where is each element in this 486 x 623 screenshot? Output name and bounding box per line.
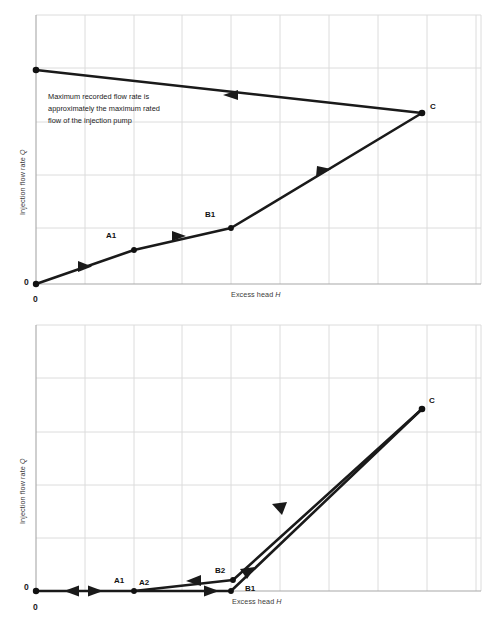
arrowheads-bottom <box>64 502 287 597</box>
point-label-C-bottom: C <box>429 396 435 405</box>
point-C <box>419 406 426 413</box>
arrowhead-left-icon <box>64 586 79 597</box>
x-axis-label-top: Excess head H <box>231 290 281 299</box>
point-origin <box>33 281 39 287</box>
arrowhead-right-icon <box>204 586 219 597</box>
data-points-bottom <box>33 406 426 594</box>
point-label-A1-top: A1 <box>106 231 116 240</box>
grid-lines-bottom <box>36 325 481 591</box>
point-label-B1-bottom: B1 <box>245 584 255 593</box>
point-A1 <box>131 588 137 594</box>
point-label-C-top: C <box>430 102 436 111</box>
y-origin-tick-top: 0 <box>24 277 29 287</box>
y-axis-label-bottom: Injection flow rate Q <box>18 458 27 524</box>
series-loading-branch-top <box>36 113 422 284</box>
chart-top-plot <box>0 0 486 312</box>
point-B1 <box>228 225 234 231</box>
point-A1 <box>131 247 137 253</box>
annotation-max-flow-note: Maximum recorded flow rate is approximat… <box>48 91 166 127</box>
chart-bottom-plot <box>0 312 486 623</box>
grid-lines-top <box>36 15 481 284</box>
y-axis-label-top: Injection flow rate Q <box>18 149 27 215</box>
y-origin-tick-bottom: 0 <box>24 582 29 592</box>
point-qmax <box>33 67 40 74</box>
arrowhead-right-icon <box>88 586 103 597</box>
axis-lines-top <box>36 15 481 284</box>
chart-top: Injection flow rate Q Excess head H 0 0 … <box>0 0 486 312</box>
point-C <box>419 110 426 117</box>
point-B1 <box>228 588 234 594</box>
point-label-B2-bottom: B2 <box>215 566 225 575</box>
series-upper-branch-bottom <box>134 409 422 591</box>
point-label-A1-bottom: A1 <box>114 576 124 585</box>
point-label-A2-bottom: A2 <box>139 578 149 587</box>
x-axis-label-bottom: Excess head H <box>232 597 282 606</box>
chart-bottom: Injection flow rate Q Excess head H 0 0 … <box>0 312 486 623</box>
axis-lines-bottom <box>36 325 481 591</box>
series-lower-branch-bottom <box>36 409 422 591</box>
point-label-B1-top: B1 <box>205 210 215 219</box>
point-B2 <box>230 577 236 583</box>
point-origin <box>33 588 39 594</box>
x-origin-tick-bottom: 0 <box>33 602 38 612</box>
x-origin-tick-top: 0 <box>33 294 38 304</box>
